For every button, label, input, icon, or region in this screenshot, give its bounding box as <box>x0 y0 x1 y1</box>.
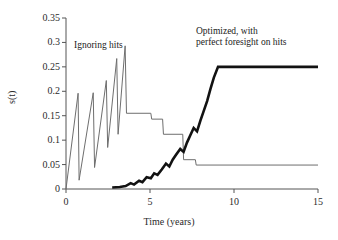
annotation-ignoring-hits: Ignoring hits <box>74 40 123 51</box>
x-tick-label: 10 <box>229 197 239 207</box>
y-tick-label: 0.35 <box>20 13 60 23</box>
x-tick-label: 5 <box>148 197 153 207</box>
y-tick-label: 0 <box>20 184 60 194</box>
y-tick-label: 0.3 <box>20 37 60 47</box>
y-tick-label: 0.1 <box>20 135 60 145</box>
y-tick-label: 0.25 <box>20 62 60 72</box>
x-tick-label: 0 <box>64 197 69 207</box>
y-axis-ticks <box>62 18 66 189</box>
x-tick-label: 15 <box>313 197 323 207</box>
annotation-optimized-perfect-foresight: Optimized, with perfect foresight on hit… <box>196 26 287 48</box>
chart-figure: 00.050.10.150.20.250.30.35 051015 s(t) T… <box>0 0 338 240</box>
y-tick-label: 0.15 <box>20 111 60 121</box>
y-tick-label: 0.2 <box>20 86 60 96</box>
y-tick-label: 0.05 <box>20 160 60 170</box>
x-axis-ticks <box>66 189 318 193</box>
series-line-thick <box>112 67 318 188</box>
data-series-group <box>66 46 318 189</box>
y-axis-label: s(t) <box>6 91 17 104</box>
x-axis-label: Time (years) <box>0 216 338 227</box>
